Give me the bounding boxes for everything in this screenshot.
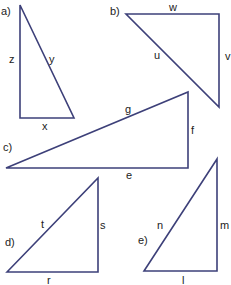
side-e-label: e (126, 169, 132, 181)
side-v-label: v (225, 50, 231, 62)
triangle-c: c) g f e (3, 92, 195, 181)
side-l-label: l (182, 274, 184, 285)
triangle-e-shape (144, 159, 217, 271)
triangle-b: b) w v u (110, 1, 231, 107)
triangle-c-label: c) (3, 141, 12, 153)
triangle-c-shape (6, 92, 188, 168)
side-t-label: t (41, 218, 44, 230)
triangle-e-label: e) (138, 234, 148, 246)
triangle-d-shape (7, 178, 98, 272)
triangle-d-label: d) (5, 236, 15, 248)
side-m-label: m (220, 219, 229, 231)
triangle-a: a) z y x (1, 5, 74, 132)
side-z-label: z (9, 53, 15, 65)
side-u-label: u (154, 49, 160, 61)
side-w-label: w (168, 1, 177, 13)
triangle-b-label: b) (110, 5, 120, 17)
side-g-label: g (125, 103, 131, 115)
side-n-label: n (157, 219, 163, 231)
side-y-label: y (49, 53, 55, 65)
side-f-label: f (191, 124, 195, 136)
triangle-d: d) t s r (5, 178, 106, 285)
side-r-label: r (47, 274, 51, 285)
triangle-b-shape (126, 14, 219, 107)
triangle-a-shape (20, 5, 74, 118)
triangles-diagram: a) z y x b) w v u c) g f e d) t s r e) n… (0, 0, 231, 285)
side-s-label: s (100, 219, 106, 231)
triangle-e: e) n m l (138, 159, 229, 285)
triangle-a-label: a) (1, 5, 11, 17)
side-x-label: x (42, 120, 48, 132)
